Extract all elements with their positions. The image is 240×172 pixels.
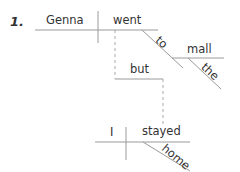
- sentence-diagram: 1. Genna went to mall the but I stayed h…: [0, 0, 240, 172]
- word-went: went: [113, 13, 141, 27]
- word-i: I: [110, 125, 113, 139]
- word-mall: mall: [187, 42, 212, 56]
- word-but: but: [130, 62, 149, 76]
- word-stayed: stayed: [142, 124, 181, 138]
- item-number: 1.: [10, 14, 24, 29]
- word-genna: Genna: [46, 13, 84, 27]
